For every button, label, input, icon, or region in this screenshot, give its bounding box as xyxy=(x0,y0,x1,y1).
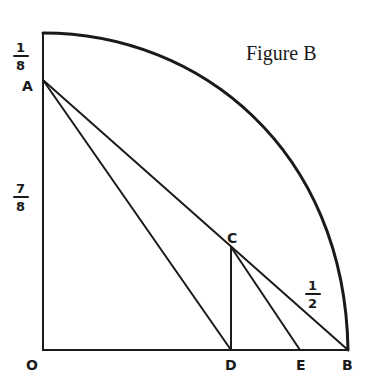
fraction-numerator: 1 xyxy=(308,278,317,293)
fraction-denominator: 8 xyxy=(16,199,25,214)
line-AB xyxy=(43,80,348,350)
point-label-E: E xyxy=(296,357,306,373)
fraction-one-eighth: 1 8 xyxy=(14,40,28,73)
figure-title: Figure B xyxy=(246,42,317,65)
point-label-O: O xyxy=(26,357,38,373)
point-label-B: B xyxy=(342,357,353,373)
point-label-D: D xyxy=(225,357,237,373)
fraction-denominator: 2 xyxy=(308,296,317,311)
fraction-numerator: 1 xyxy=(16,40,25,55)
fraction-denominator: 8 xyxy=(16,58,25,73)
fraction-numerator: 7 xyxy=(16,181,25,196)
point-label-A: A xyxy=(22,78,33,94)
fraction-one-half: 1 2 xyxy=(306,278,320,311)
quarter-circle-arc xyxy=(43,33,348,350)
geometry-figure: Figure B 1 8 7 8 1 2 A O C D E B xyxy=(0,0,370,386)
fraction-seven-eighths: 7 8 xyxy=(14,181,28,214)
line-AD xyxy=(43,80,231,350)
point-label-C: C xyxy=(227,230,237,246)
